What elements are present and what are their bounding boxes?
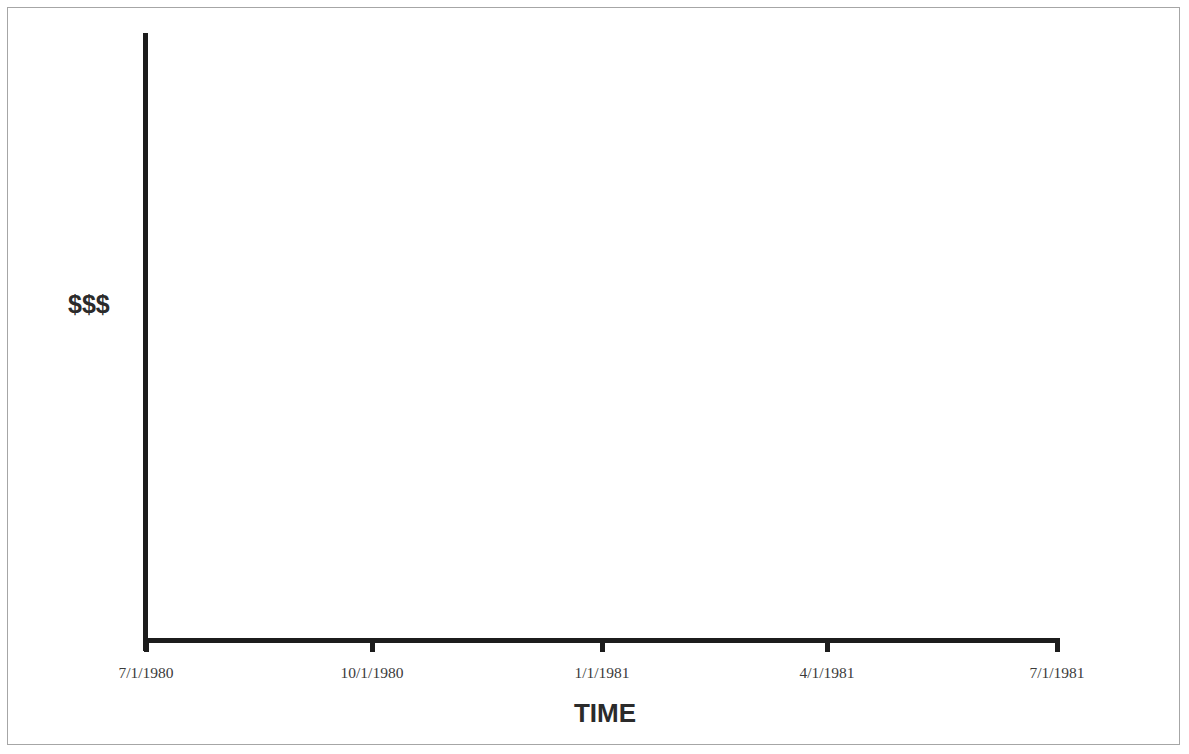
x-axis-tick (370, 638, 375, 652)
plot-figure: 7/1/1980 10/1/1980 1/1/1981 4/1/1981 7/1… (0, 0, 1189, 754)
x-axis-tick-label: 4/1/1981 (799, 663, 854, 682)
y-axis-line (143, 33, 148, 651)
x-axis-tick (144, 638, 149, 652)
x-axis-title: TIME (574, 697, 636, 729)
x-axis-tick (825, 638, 830, 652)
y-axis-title: $$$ (68, 289, 110, 319)
x-axis-tick-label: 10/1/1980 (341, 663, 404, 682)
x-axis-tick-label: 7/1/1980 (118, 663, 173, 682)
chart-canvas: 7/1/1980 10/1/1980 1/1/1981 4/1/1981 7/1… (0, 0, 1189, 754)
x-axis-tick (1055, 638, 1060, 652)
plot-area (148, 33, 1060, 638)
x-axis-tick-label: 1/1/1981 (574, 663, 629, 682)
x-axis-tick (600, 638, 605, 652)
x-axis-tick-label: 7/1/1981 (1029, 663, 1084, 682)
